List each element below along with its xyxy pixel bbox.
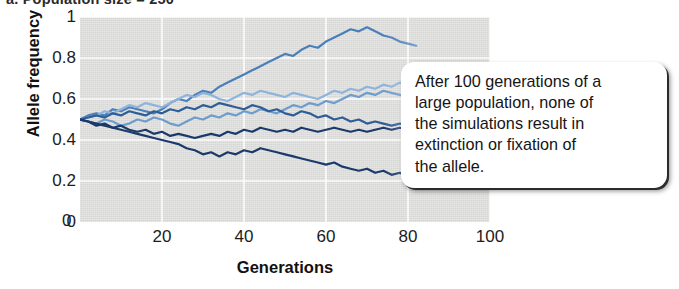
- y-axis-tick-label: 0.4: [42, 131, 76, 148]
- x-axis-tick-labels: 20406080100: [80, 228, 490, 254]
- x-axis-tick-label: 100: [476, 228, 504, 245]
- y-axis-tick-labels: 00.20.40.60.81: [38, 0, 76, 289]
- x-axis-tick-label: 40: [235, 228, 254, 245]
- y-axis-tick-label: 1: [42, 8, 76, 25]
- x-axis-tick-zero: 0: [62, 211, 71, 231]
- y-axis-tick-label: 0.2: [42, 172, 76, 189]
- x-axis-tick-label: 20: [153, 228, 172, 245]
- x-axis-title: Generations: [80, 258, 490, 277]
- y-axis-tick-label: 0.8: [42, 49, 76, 66]
- x-axis-tick-label: 60: [317, 228, 336, 245]
- annotation-callout: After 100 generations of a large populat…: [401, 62, 667, 188]
- figure-panel: a. Population size = 250 Allele frequenc…: [0, 0, 679, 289]
- x-axis-tick-label: 80: [399, 228, 418, 245]
- annotation-callout-text: After 100 generations of a large populat…: [415, 71, 655, 177]
- y-axis-tick-label: 0.6: [42, 90, 76, 107]
